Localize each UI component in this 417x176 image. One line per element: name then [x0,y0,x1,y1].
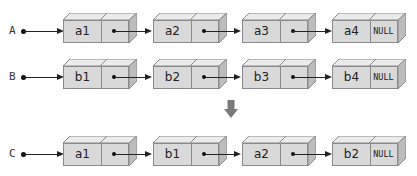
arrow-head-icon [325,28,332,34]
node-data: b3 [243,67,281,88]
next-arrow-line [205,154,234,155]
list-a: A a1 a2 a3 a4 NULL [0,13,417,53]
next-arrow-line [205,77,234,78]
node-data: b4 [333,67,371,88]
arrow-head-icon [325,151,332,157]
node-front: b4 NULL [332,66,398,89]
arrow-head-icon [145,151,152,157]
arrow-head-icon [145,74,152,80]
next-arrow-line [115,31,145,32]
node-data: b2 [333,144,371,165]
list-node: a3 [242,13,316,44]
next-arrow-line [115,154,145,155]
pointer-arrow-line [23,31,58,32]
next-arrow-line [294,31,325,32]
node-front: b2 NULL [332,143,398,166]
list-node: b3 [242,59,316,90]
list-node: a2 [242,136,316,167]
node-data: a1 [64,21,102,42]
node-data: b1 [154,144,192,165]
down-arrow-icon [224,100,238,118]
next-arrow-line [115,77,145,78]
pointer-label-b: B [9,71,16,83]
list-node-tail: b4 NULL [332,59,406,90]
list-node: a1 [63,136,137,167]
list-node: b1 [63,59,137,90]
null-pointer: NULL [370,67,397,88]
node-data: b2 [154,67,192,88]
pointer-label-c: C [9,148,16,160]
node-data: b1 [64,67,102,88]
node-data: a2 [154,21,192,42]
arrow-head-icon [145,28,152,34]
pointer-arrow-line [23,154,58,155]
node-data: a3 [243,21,281,42]
next-arrow-line [205,31,234,32]
list-node: a2 [153,13,227,44]
null-pointer: NULL [370,21,397,42]
list-b: B b1 b2 b3 b4 NULL [0,59,417,99]
list-node: b1 [153,136,227,167]
list-node-tail: b2 NULL [332,136,406,167]
arrow-head-icon [234,28,241,34]
arrow-head-icon [325,74,332,80]
list-node-tail: a4 NULL [332,13,406,44]
next-arrow-line [294,77,325,78]
list-node: b2 [153,59,227,90]
next-arrow-line [294,154,325,155]
arrow-head-icon [234,151,241,157]
node-data: a1 [64,144,102,165]
list-node: a1 [63,13,137,44]
node-data: a4 [333,21,371,42]
arrow-head-icon [234,74,241,80]
node-front: a4 NULL [332,20,398,43]
pointer-arrow-line [23,77,58,78]
node-data: a2 [243,144,281,165]
pointer-label-a: A [9,25,16,37]
list-c: C a1 b1 a2 b2 NULL [0,136,417,176]
null-pointer: NULL [370,144,397,165]
